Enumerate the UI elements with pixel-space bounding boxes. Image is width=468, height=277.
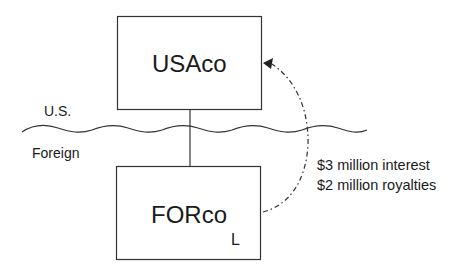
region-label-foreign: Foreign [32, 146, 79, 160]
border-wave-line [22, 125, 367, 132]
payment-interest-label: $3 million interest [317, 155, 430, 175]
payment-flow-arrow [263, 64, 308, 212]
usaco-label: USAco [152, 52, 227, 76]
payment-royalties-label: $2 million royalties [317, 175, 436, 195]
forco-label: FORco [151, 203, 227, 227]
forco-marker: L [231, 232, 240, 248]
arrowhead-icon [263, 58, 273, 69]
region-label-us: U.S. [44, 104, 71, 118]
